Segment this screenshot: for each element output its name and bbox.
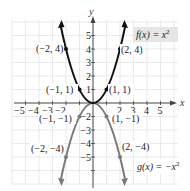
arrow-down-icon: [122, 178, 129, 186]
arrow-down-icon: [58, 178, 65, 186]
arrow-up-icon: [58, 20, 65, 28]
y-tick-label: −5: [80, 152, 91, 163]
y-axis-label: y: [88, 6, 94, 17]
point-label: (1, 1): [109, 84, 131, 96]
y-tick-label: 3: [86, 57, 91, 68]
y-tick-label: 5: [86, 30, 91, 41]
point-label: (−2, −4): [31, 143, 64, 155]
x-tick-label: −4: [28, 105, 39, 116]
point-marker: [64, 47, 68, 51]
point-marker: [105, 88, 109, 92]
point-marker: [64, 155, 68, 159]
point-label: (2, 4): [121, 44, 143, 56]
point-marker: [118, 155, 122, 159]
g-function-label: g(x) = −x2: [135, 159, 185, 174]
svg-text:f(x) = x2: f(x) = x2: [136, 28, 170, 41]
y-tick-labels: 5 4 3 2 1 −2 −3 −4 −5: [80, 30, 91, 163]
f-function-label: f(x) = x2: [133, 27, 178, 42]
x-tick-label: 4: [144, 105, 149, 116]
point-label: (2, −4): [122, 141, 149, 153]
svg-text:g(x) = −x2: g(x) = −x2: [137, 160, 180, 173]
point-marker: [105, 115, 109, 119]
point-label: (−2, 4): [36, 43, 63, 55]
point-marker: [78, 88, 82, 92]
point-marker: [78, 115, 82, 119]
y-tick-label: 4: [86, 44, 91, 55]
point-label: (1, −1): [112, 113, 139, 125]
x-axis-label: x: [179, 97, 185, 108]
y-tick-label: 1: [86, 84, 91, 95]
y-tick-label: 2: [86, 71, 91, 82]
y-tick-label: −3: [80, 125, 91, 136]
y-tick-label: −4: [80, 138, 91, 149]
arrow-up-icon: [122, 20, 129, 28]
x-tick-label: −5: [14, 105, 25, 116]
point-label: (−1, −1): [39, 113, 72, 125]
parabola-chart: x y −5 −4 −3 −2 2 3 4 5 5 4 3 2 1 −2 −3 …: [0, 0, 190, 191]
x-tick-label: 5: [158, 105, 163, 116]
point-label: (−1, 1): [46, 84, 73, 96]
